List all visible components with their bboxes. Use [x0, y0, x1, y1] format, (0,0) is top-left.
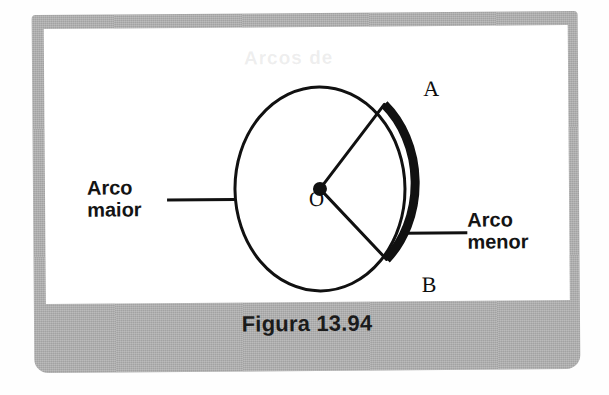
figure-caption: Figura 13.94: [34, 309, 580, 339]
radius-line-oa: [319, 104, 385, 189]
drawing-area: Arcos de Arco maior Arco menor: [44, 25, 570, 304]
label-point-b: B: [422, 272, 437, 298]
leader-line-arco-maior: [167, 200, 235, 201]
circle-diagram: [44, 25, 570, 304]
label-point-a: A: [423, 76, 439, 102]
label-center-point-o: O: [309, 187, 324, 212]
label-arco-menor: Arco menor: [467, 208, 528, 253]
radius-line-ob: [320, 188, 387, 260]
leader-line-arco-menor: [403, 233, 467, 234]
figure-panel: Arcos de Arco maior Arco menor: [32, 11, 581, 373]
scanned-page: Arcos de Arco maior Arco menor: [0, 0, 609, 395]
label-arco-maior: Arco maior: [87, 176, 142, 221]
